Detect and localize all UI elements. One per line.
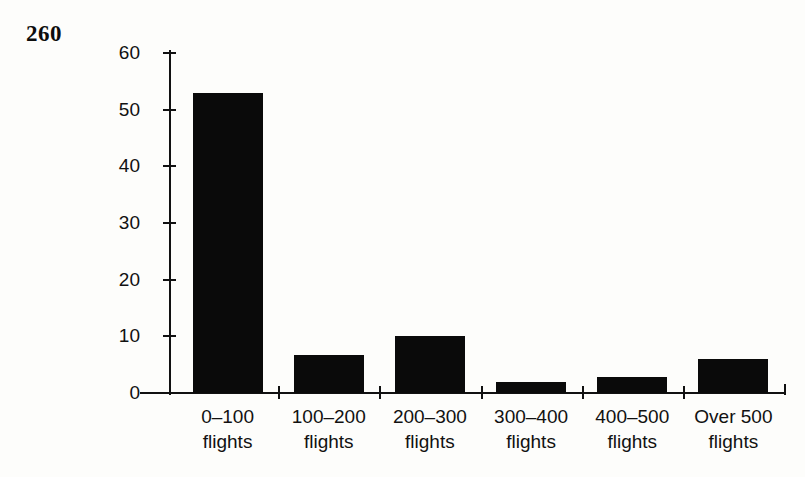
x-axis-category-label: 100–200flights xyxy=(278,404,379,454)
category-label-range: 400–500 xyxy=(582,404,683,429)
category-label-range: 200–300 xyxy=(379,404,480,429)
bar xyxy=(193,93,263,393)
bar xyxy=(395,336,465,393)
x-axis-category-label: Over 500flights xyxy=(683,404,784,454)
bar xyxy=(597,377,667,393)
category-label-unit: flights xyxy=(177,429,278,454)
x-axis-category-label: 200–300flights xyxy=(379,404,480,454)
bar xyxy=(496,382,566,393)
bars-layer xyxy=(0,0,805,393)
category-label-unit: flights xyxy=(278,429,379,454)
category-label-range: 300–400 xyxy=(481,404,582,429)
category-label-unit: flights xyxy=(582,429,683,454)
category-label-range: 100–200 xyxy=(278,404,379,429)
category-label-range: 0–100 xyxy=(177,404,278,429)
x-axis-category-label: 300–400flights xyxy=(481,404,582,454)
x-axis-category-label: 400–500flights xyxy=(582,404,683,454)
category-label-unit: flights xyxy=(379,429,480,454)
x-axis-category-label: 0–100flights xyxy=(177,404,278,454)
bar xyxy=(698,359,768,393)
category-label-range: Over 500 xyxy=(683,404,784,429)
bar xyxy=(294,355,364,393)
category-label-unit: flights xyxy=(683,429,784,454)
category-label-unit: flights xyxy=(481,429,582,454)
bar-chart: 0102030405060 0–100flights100–200flights… xyxy=(0,0,805,477)
